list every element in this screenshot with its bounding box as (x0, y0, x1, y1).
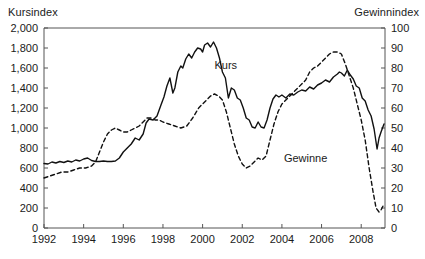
x-tick-label: 1998 (151, 234, 175, 245)
x-tick-label: 2002 (230, 234, 254, 245)
x-tick-label: 1994 (71, 234, 95, 245)
x-tick-label: 1992 (32, 234, 56, 245)
y-tick-label-right: 20 (391, 183, 403, 194)
plot-area (0, 0, 425, 259)
y-tick-label-left: 1,200 (10, 103, 38, 114)
y-tick-label-left: 0 (32, 223, 38, 234)
y-tick-label-right: 10 (391, 203, 403, 214)
y-tick-label-right: 90 (391, 43, 403, 54)
x-tick-label: 2008 (349, 234, 373, 245)
y-tick-label-right: 0 (391, 223, 397, 234)
y-tick-label-right: 50 (391, 123, 403, 134)
y-tick-label-left: 600 (20, 163, 38, 174)
y-tick-label-right: 40 (391, 143, 403, 154)
x-tick-label: 2006 (309, 234, 333, 245)
y-tick-label-left: 1,600 (10, 63, 38, 74)
y-tick-label-right: 60 (391, 103, 403, 114)
y-tick-label-right: 100 (391, 23, 409, 34)
y-tick-label-left: 400 (20, 183, 38, 194)
axis-ticks (44, 28, 385, 228)
y-tick-label-right: 70 (391, 83, 403, 94)
y-tick-label-right: 80 (391, 63, 403, 74)
plot-frame (44, 28, 385, 228)
y-tick-label-right: 30 (391, 163, 403, 174)
y-tick-label-left: 800 (20, 143, 38, 154)
chart-container: Kursindex Gewinnindex 02004006008001,000… (0, 0, 425, 259)
y-tick-label-left: 1,800 (10, 43, 38, 54)
series-line-gewinne (44, 52, 384, 212)
x-tick-label: 2004 (270, 234, 294, 245)
y-tick-label-left: 200 (20, 203, 38, 214)
left-axis-title: Kursindex (8, 6, 58, 18)
y-tick-label-left: 2,000 (10, 23, 38, 34)
series-label-gewinne: Gewinne (284, 152, 327, 164)
x-tick-label: 1996 (111, 234, 135, 245)
right-axis-title: Gewinnindex (354, 6, 419, 18)
x-tick-label: 2000 (190, 234, 214, 245)
series-label-kurs: Kurs (215, 59, 238, 71)
y-tick-label-left: 1,400 (10, 83, 38, 94)
y-tick-label-left: 1,000 (10, 123, 38, 134)
